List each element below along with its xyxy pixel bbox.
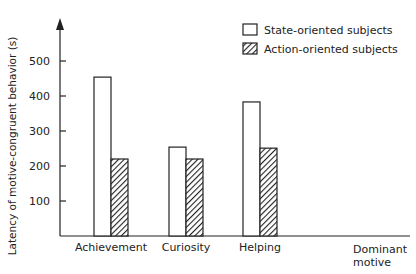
x-tick-label-curiosity: Curiosity [162, 241, 211, 254]
legend: State-oriented subjects Action-oriented … [243, 24, 398, 56]
y-tick-label: 400 [29, 90, 50, 103]
bar-action-helping [260, 148, 277, 236]
legend-swatch-state [243, 24, 257, 35]
bar-chart: 100200300400500 AchievementCuriosityHelp… [0, 0, 416, 274]
bar-action-curiosity [186, 159, 203, 236]
y-tick-label: 200 [29, 160, 50, 173]
x-axis-label-line1: Dominant [353, 243, 408, 256]
bar-state-helping [243, 102, 260, 236]
y-tick-label: 300 [29, 125, 50, 138]
legend-label-state: State-oriented subjects [264, 24, 393, 37]
x-tick-labels: AchievementCuriosityHelping [75, 241, 281, 254]
y-tick-label: 100 [29, 195, 50, 208]
y-axis-arrow-icon [56, 18, 64, 30]
bar-action-achievement [111, 159, 128, 236]
bar-state-curiosity [169, 147, 186, 236]
x-axis-label-line2: motive [353, 256, 391, 269]
bars [94, 77, 277, 236]
x-tick-label-helping: Helping [239, 241, 281, 254]
legend-swatch-action [243, 43, 257, 54]
y-tick-label: 500 [29, 55, 50, 68]
x-tick-label-achievement: Achievement [75, 241, 148, 254]
y-axis-label: Latency of motive-congruent behavior (s) [6, 37, 18, 256]
bar-state-achievement [94, 77, 111, 236]
legend-label-action: Action-oriented subjects [264, 43, 398, 56]
